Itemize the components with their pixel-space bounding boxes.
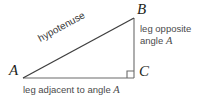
vertex-label-b: B [137,2,146,17]
leg-opposite-label-line2: angle [140,35,166,46]
leg-adjacent-label: leg adjacent to angle A [23,84,120,96]
hypotenuse-line [23,18,134,78]
leg-adjacent-label-angle: A [113,84,119,95]
geometry-figure: A B C hypotenuse leg opposite angle A le… [0,0,216,104]
leg-opposite-label-line1: leg opposite [140,23,191,34]
leg-opposite-label: leg opposite angle A [140,23,214,47]
leg-adjacent-label-text: leg adjacent to angle [23,84,113,95]
right-angle-marker-icon [127,71,134,78]
vertex-label-c: C [139,64,149,79]
leg-opposite-label-angle: A [166,35,172,46]
vertex-label-a: A [9,63,18,78]
